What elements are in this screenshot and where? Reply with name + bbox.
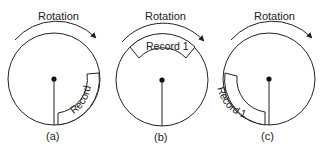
record-label: Record 1 bbox=[146, 40, 189, 52]
panel-caption: (b) bbox=[154, 131, 167, 143]
rotation-label: Rotation bbox=[254, 10, 295, 22]
panel-a: Rotation Record 1 (a) bbox=[0, 0, 100, 142]
spindle-dot-icon bbox=[266, 76, 271, 81]
panel-caption: (c) bbox=[261, 130, 274, 142]
rotation-label: Rotation bbox=[38, 10, 79, 22]
spindle-dot-icon bbox=[159, 77, 164, 82]
panel-caption: (a) bbox=[46, 130, 59, 142]
spindle-dot-icon bbox=[51, 76, 56, 81]
disk-rotation-diagram: Rotation Record 1 (a) Rotation Record 1 … bbox=[0, 0, 324, 151]
rotation-label: Rotation bbox=[145, 10, 186, 22]
rotation-arrow-icon bbox=[231, 21, 311, 40]
panel-c: Rotation Record 1 (c) bbox=[215, 10, 315, 142]
rotation-arrow-icon bbox=[15, 21, 95, 40]
panel-b: Rotation Record 1 (b) bbox=[116, 10, 208, 143]
